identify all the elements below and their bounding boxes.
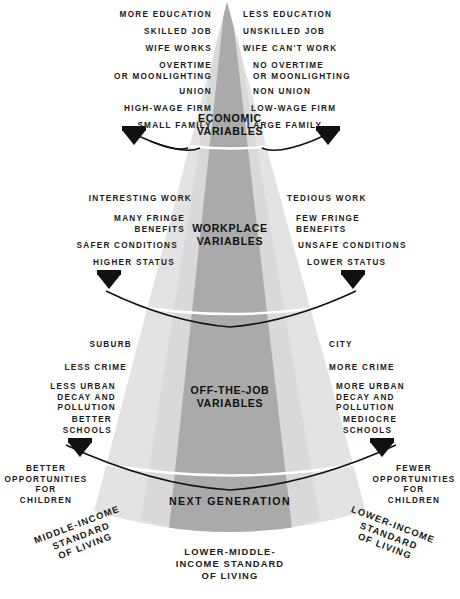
economic-right-item-4: NON UNION <box>253 87 433 98</box>
economic-left-item-4: UNION <box>40 87 212 98</box>
workplace-right-item-2: UNSAFE CONDITIONS <box>298 241 460 252</box>
workplace-left-item-0: INTERESTING WORK <box>20 194 192 205</box>
offthejob-left-item-3: BETTER SCHOOLS <box>10 415 112 436</box>
offthejob-right-item-3: MEDIOCRE SCHOOLS <box>343 415 448 436</box>
economic-right-item-0: LESS EDUCATION <box>243 10 423 21</box>
nextgen-left-item-0: BETTER OPPORTUNITIES FOR CHILDREN <box>2 464 90 506</box>
section-title-offthejob: OFF-THE-JOB VARIABLES <box>168 384 292 410</box>
arrow-workplace-left <box>97 270 121 289</box>
economic-left-item-3: OVERTIME OR MOONLIGHTING <box>20 61 212 82</box>
economic-right-item-2: WIFE CAN'T WORK <box>243 44 423 55</box>
offthejob-right-item-1: MORE CRIME <box>329 363 446 374</box>
economic-left-item-1: SKILLED JOB <box>40 27 212 38</box>
economic-right-item-3: NO OVERTIME OR MOONLIGHTING <box>253 61 443 82</box>
section-title-economic: ECONOMIC VARIABLES <box>182 112 278 138</box>
workplace-right-item-3: LOWER STATUS <box>307 258 457 269</box>
offthejob-left-item-1: LESS CRIME <box>10 363 127 374</box>
base-label-center: LOWER-MIDDLE- INCOME STANDARD OF LIVING <box>155 546 305 582</box>
workplace-right-item-1: FEW FRINGE BENEFITS <box>296 214 456 235</box>
offthejob-left-item-0: SUBURB <box>20 340 132 351</box>
economic-right-item-1: UNSKILLED JOB <box>243 27 423 38</box>
section-title-workplace: WORKPLACE VARIABLES <box>175 222 285 248</box>
section-title-nextgen: NEXT GENERATION <box>150 495 310 508</box>
workplace-left-item-3: HIGHER STATUS <box>20 258 175 269</box>
offthejob-right-item-2: MORE URBAN DECAY AND POLLUTION <box>336 382 451 414</box>
offthejob-left-item-2: LESS URBAN DECAY AND POLLUTION <box>6 382 116 414</box>
diagram-canvas: MORE EDUCATION SKILLED JOB WIFE WORKS OV… <box>0 0 460 599</box>
economic-left-item-0: MORE EDUCATION <box>40 10 212 21</box>
economic-right-item-5: LOW-WAGE FIRM <box>251 104 431 115</box>
offthejob-right-item-0: CITY <box>329 340 441 351</box>
workplace-left-item-2: SAFER CONDITIONS <box>10 241 178 252</box>
nextgen-right-item-0: FEWER OPPORTUNITIES FOR CHILDREN <box>370 464 458 506</box>
arrow-workplace-right <box>341 270 365 289</box>
economic-left-item-2: WIFE WORKS <box>40 44 212 55</box>
workplace-right-item-0: TEDIOUS WORK <box>287 194 457 205</box>
workplace-left-item-1: MANY FRINGE BENEFITS <box>20 214 185 235</box>
